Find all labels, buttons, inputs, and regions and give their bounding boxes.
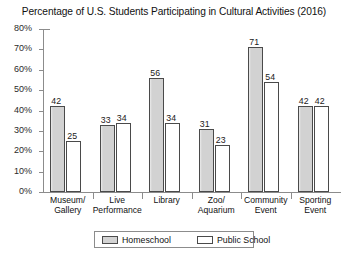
bar-value-label: 23 (216, 135, 226, 145)
y-axis-label: 0% (0, 186, 32, 196)
bar-value-label: 25 (67, 131, 77, 141)
bar-chart: Percentage of U.S. Students Participatin… (0, 0, 348, 261)
bar-value-label: 33 (101, 115, 111, 125)
y-axis-label: 70% (0, 43, 32, 53)
category-label-line: Sporting (285, 195, 347, 205)
bar-homeschool (50, 106, 65, 192)
chart-title: Percentage of U.S. Students Participatin… (0, 6, 348, 17)
category-label-line: Performance (87, 205, 149, 215)
bar-value-label: 31 (200, 119, 210, 129)
bar-homeschool (248, 47, 263, 192)
y-axis-tick (39, 70, 43, 71)
y-axis-tick (39, 131, 43, 132)
bar-value-label: 54 (265, 72, 275, 82)
y-axis-label: 20% (0, 145, 32, 155)
bar-public-school (264, 82, 279, 192)
legend-label-homeschool: Homeschool (122, 235, 171, 245)
bar-value-label: 42 (299, 96, 309, 106)
y-axis-tick (39, 172, 43, 173)
x-axis-category-label: SportingEvent (285, 195, 347, 215)
y-axis-label: 60% (0, 64, 32, 74)
bar-homeschool (100, 125, 115, 192)
category-label-line: Event (285, 205, 347, 215)
y-axis-label: 10% (0, 166, 32, 176)
legend-item-homeschool: Homeschool (102, 235, 171, 245)
bar-homeschool (199, 129, 214, 192)
bar-public-school (314, 106, 329, 192)
bar-homeschool (149, 78, 164, 192)
bar-value-label: 34 (117, 113, 127, 123)
y-axis-label: 40% (0, 105, 32, 115)
bar-public-school (165, 123, 180, 192)
y-axis-tick (39, 192, 43, 193)
legend-swatch-homeschool (102, 236, 118, 244)
bar-public-school (215, 145, 230, 192)
y-axis-label: 50% (0, 84, 32, 94)
legend-swatch-public-school (197, 236, 213, 244)
bar-value-label: 71 (249, 37, 259, 47)
bar-public-school (66, 141, 81, 192)
bar-value-label: 34 (166, 113, 176, 123)
legend-item-public-school: Public School (197, 235, 270, 245)
bar-public-school (116, 123, 131, 192)
legend-label-public-school: Public School (217, 235, 270, 245)
chart-legend: Homeschool Public School (94, 231, 254, 248)
y-axis-label: 30% (0, 125, 32, 135)
y-axis-tick (39, 111, 43, 112)
y-axis-tick (39, 90, 43, 91)
y-axis-tick (39, 151, 43, 152)
plot-area: 0%10%20%30%40%50%60%70%80%42253334563431… (43, 29, 340, 192)
bar-value-label: 42 (51, 96, 61, 106)
bar-value-label: 56 (150, 68, 160, 78)
bar-homeschool (298, 106, 313, 192)
y-axis-label: 80% (0, 23, 32, 33)
y-axis-tick (39, 49, 43, 50)
y-axis-tick (39, 29, 43, 30)
bar-value-label: 42 (315, 96, 325, 106)
